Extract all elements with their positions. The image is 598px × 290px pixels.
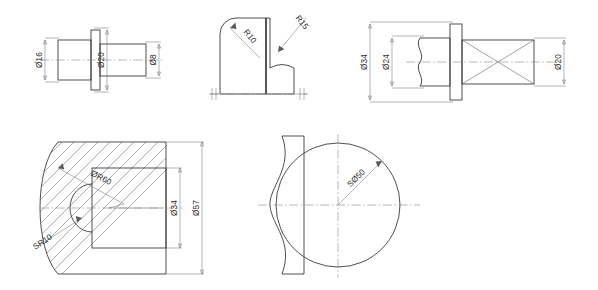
dimension-d20-label: Ø20: [97, 52, 106, 68]
dimension-sr10-label: SR10: [31, 232, 54, 251]
dimension-r15-label: R15: [294, 14, 311, 32]
dimension-r10: R10: [230, 23, 260, 58]
dimension-d20: Ø20: [94, 28, 109, 92]
dimension-r15: R15: [278, 14, 310, 52]
view-filleted-profile-elevation: R10 R15: [208, 6, 348, 116]
drawing-sheet: Ø16 Ø20 Ø8: [0, 0, 598, 290]
dimension-d34-section-label: Ø34: [170, 200, 179, 216]
dimension-d24-label: Ø24: [382, 54, 391, 70]
dimension-d8-label: Ø8: [149, 54, 158, 65]
view-stepped-shaft-side-elevation: Ø16 Ø20 Ø8: [18, 8, 198, 113]
dimension-s-d50-label: SØ50: [346, 167, 368, 189]
profile-right-block: [266, 18, 294, 94]
dimension-r10-label: R10: [242, 28, 259, 46]
dimension-d34-label: Ø34: [360, 54, 369, 70]
dimension-r60-label: ØR60: [89, 169, 113, 187]
profile-left-block: [220, 18, 266, 94]
dimension-d8: Ø8: [145, 42, 161, 78]
view-spherical-head-elevation: SØ50: [248, 122, 438, 287]
dimension-d57-label: Ø57: [192, 200, 201, 216]
dimension-d20-right-label: Ø20: [554, 54, 563, 70]
dimension-d16-label: Ø16: [35, 52, 44, 68]
dimension-s-d50: SØ50: [338, 161, 382, 205]
dimension-sr10: SR10: [31, 216, 82, 251]
view-hatched-section: SR10 ØR60 Ø34: [14, 122, 224, 287]
view-flanged-shaft-section: Ø34 Ø24 Ø20: [358, 6, 593, 116]
